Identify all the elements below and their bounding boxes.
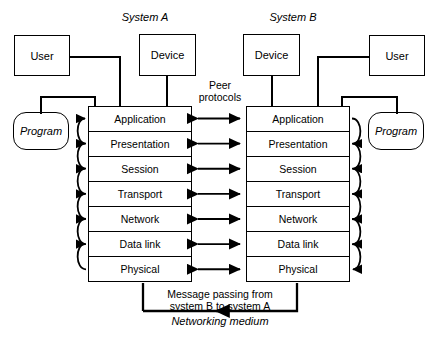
layer-physical-a: Physical	[89, 257, 191, 281]
layer-stack-system-b: Application Presentation Session Transpo…	[246, 106, 350, 282]
user-b-connector-vertical	[317, 56, 319, 108]
system-b-title: System B	[248, 11, 338, 23]
networking-medium-label: Networking medium	[155, 315, 285, 327]
layer-presentation-a: Presentation	[89, 132, 191, 157]
layer-stack-system-a: Application Presentation Session Transpo…	[88, 106, 192, 282]
peer-protocol-arrows	[198, 119, 240, 270]
message-caption-line2: system B to system A	[155, 300, 285, 312]
program-b-connector-vertical	[396, 96, 398, 114]
osi-model-diagram: System A System B User Device Device Use…	[0, 0, 433, 339]
program-a-connector-horizontal	[40, 96, 96, 98]
device-a-connector-vertical	[166, 76, 168, 108]
layer-application-b: Application	[247, 107, 349, 132]
layer-presentation-b: Presentation	[247, 132, 349, 157]
message-caption-line1: Message passing from	[155, 288, 285, 300]
user-a-connector-vertical	[119, 56, 121, 108]
device-a-box: Device	[139, 34, 196, 76]
device-b-connector-vertical	[271, 76, 273, 108]
program-b-box: Program	[368, 112, 424, 150]
user-a-connector-horizontal	[69, 56, 121, 58]
layer-session-a: Session	[89, 157, 191, 182]
stack-a-loop-arrows	[78, 119, 86, 270]
peer-protocols-label-line1: Peer	[196, 79, 244, 91]
layer-physical-b: Physical	[247, 257, 349, 281]
layer-transport-b: Transport	[247, 182, 349, 207]
user-a-box: User	[14, 35, 70, 76]
program-b-connector-horizontal	[341, 96, 398, 98]
user-b-connector-horizontal	[317, 56, 370, 58]
layer-application-a: Application	[89, 107, 191, 132]
layer-transport-a: Transport	[89, 182, 191, 207]
peer-protocols-label-line2: protocols	[190, 91, 250, 103]
layer-session-b: Session	[247, 157, 349, 182]
device-b-box: Device	[243, 34, 300, 76]
layer-network-a: Network	[89, 207, 191, 232]
stack-b-loop-arrows	[352, 119, 360, 270]
layer-datalink-a: Data link	[89, 232, 191, 257]
layer-network-b: Network	[247, 207, 349, 232]
layer-datalink-b: Data link	[247, 232, 349, 257]
user-b-box: User	[369, 35, 425, 76]
system-a-title: System A	[100, 11, 190, 23]
program-a-connector-vertical	[40, 96, 42, 114]
program-a-box: Program	[13, 112, 69, 150]
